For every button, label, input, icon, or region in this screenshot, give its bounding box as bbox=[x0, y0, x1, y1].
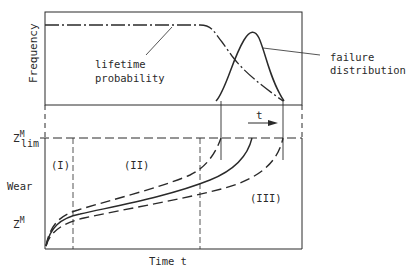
failure-leader-line bbox=[263, 48, 320, 55]
wear-curve-lower bbox=[46, 138, 283, 246]
failure-label-line1: failure bbox=[330, 51, 374, 63]
lifetime-leader-line bbox=[146, 27, 172, 55]
lifetime-label-line1: lifetime bbox=[95, 58, 146, 70]
frequency-axis-label: Frequency bbox=[27, 23, 40, 83]
wear-axis-label: Wear bbox=[7, 180, 32, 192]
wear-failure-diagram: Frequency lifetime probability failure d… bbox=[0, 0, 411, 274]
zm-label: ZM bbox=[13, 216, 25, 231]
lifetime-label-line2: probability bbox=[95, 72, 165, 84]
arrow-head-icon bbox=[268, 120, 278, 126]
phase-label-3: (III) bbox=[250, 192, 282, 204]
time-axis-label: Time t bbox=[149, 255, 187, 267]
wear-curve-upper bbox=[46, 138, 221, 246]
phase-label-1: (I) bbox=[51, 159, 70, 171]
wear-panel bbox=[40, 105, 302, 249]
time-arrow-label: t bbox=[256, 109, 263, 122]
frequency-panel bbox=[45, 12, 302, 105]
zlim-subscript: lim bbox=[21, 138, 39, 149]
failure-distribution-curve bbox=[216, 32, 284, 101]
failure-label-line2: distribution bbox=[330, 64, 406, 76]
phase-label-2: (II) bbox=[124, 159, 149, 171]
